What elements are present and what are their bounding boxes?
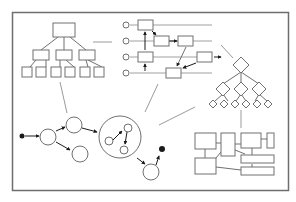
substate-node [105, 137, 113, 145]
state-node [143, 164, 159, 180]
tree-leaf-node [22, 67, 32, 77]
block [241, 155, 274, 163]
flow-box [154, 36, 169, 46]
flow-box [197, 52, 212, 62]
end-dot [159, 146, 165, 152]
tree-leaf-node [51, 67, 61, 77]
state-node [66, 117, 82, 133]
tree-child-node [79, 50, 95, 60]
tree-leaf-node [65, 67, 75, 77]
lane-input-circle [123, 54, 129, 60]
lane-input-circle [123, 38, 129, 44]
flow-box [178, 36, 193, 46]
block [195, 133, 216, 149]
start-dot [20, 134, 25, 139]
tree-leaf-node [94, 67, 104, 77]
state-node [72, 146, 88, 162]
block [267, 133, 274, 148]
flow-box [138, 20, 153, 30]
block [195, 158, 216, 174]
substate-node [120, 146, 128, 154]
substate-node [124, 124, 132, 132]
lane-input-circle [123, 22, 129, 28]
tree-leaf-node [80, 67, 90, 77]
diagram-svg [0, 0, 296, 202]
flow-box [166, 68, 181, 78]
lane-input-circle [123, 70, 129, 76]
tree-child-node [56, 50, 72, 60]
state-node [40, 129, 56, 145]
tree-leaf-node [36, 67, 46, 77]
tree-root-node [53, 23, 75, 37]
diagram-canvas [0, 0, 296, 202]
block [241, 133, 261, 148]
tree-child-node [33, 50, 49, 60]
flow-box [138, 52, 153, 62]
block [241, 167, 274, 175]
block [221, 133, 235, 156]
